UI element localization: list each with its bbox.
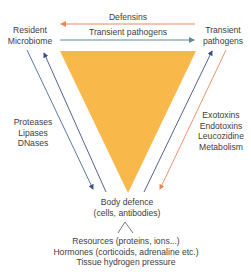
left-factor-proteases: Proteases — [10, 117, 56, 128]
node-body-defence: Body defence (cells, antibodies) — [75, 197, 179, 218]
right-factor-leucozidine: Leucozidine — [193, 131, 249, 142]
bottom-factor-hormones: Hormones (corticoids, adrenaline etc.) — [40, 247, 212, 258]
bottom-factor-tissue: Tissue hydrogen pressure — [40, 257, 212, 268]
resident-line1: Resident — [2, 25, 58, 36]
right-factors: Exotoxins Endotoxins Leucozidine Metabol… — [193, 110, 249, 152]
transient-line2: pathogens — [196, 36, 250, 47]
body-defence-line2: (cells, antibodies) — [75, 208, 179, 219]
node-resident-microbiome: Resident Microbiome — [2, 25, 58, 46]
central-triangle — [60, 51, 196, 193]
label-transient-pathogens: Transient pathogens — [70, 27, 186, 38]
bottom-factors: Resources (proteins, ions...) Hormones (… — [40, 236, 212, 268]
caret-connector — [118, 222, 133, 233]
bottom-factor-resources: Resources (proteins, ions...) — [40, 236, 212, 247]
node-transient-pathogens: Transient pathogens — [196, 25, 250, 46]
left-factor-lipases: Lipases — [10, 128, 56, 139]
left-factor-dnases: DNases — [10, 138, 56, 149]
body-defence-line1: Body defence — [75, 197, 179, 208]
right-factor-endotoxins: Endotoxins — [193, 121, 249, 132]
transient-line1: Transient — [196, 25, 250, 36]
right-factor-metabolism: Metabolism — [193, 142, 249, 153]
left-factors: Proteases Lipases DNases — [10, 117, 56, 149]
right-factor-exotoxins: Exotoxins — [193, 110, 249, 121]
resident-line2: Microbiome — [2, 36, 58, 47]
label-defensins: Defensins — [70, 12, 186, 23]
